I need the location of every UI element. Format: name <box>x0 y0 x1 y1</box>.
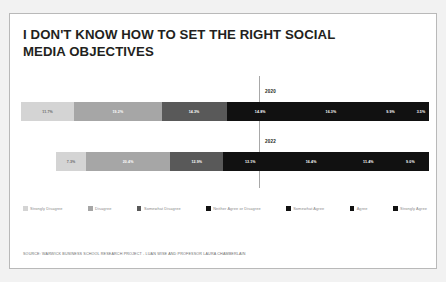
bar-segment: 13.1% <box>223 152 277 171</box>
bar-segment: 19.2% <box>74 102 161 121</box>
source-note: SOURCE: WARWICK BUSINESS SCHOOL RESEARCH… <box>23 252 246 256</box>
bar-segment: 7.3% <box>56 152 86 171</box>
legend-swatch-icon <box>286 206 291 211</box>
legend-item[interactable]: Somewhat Agree <box>286 206 324 211</box>
bar-segment: 11.7% <box>21 102 74 121</box>
bar-segment-value: 20.4% <box>123 160 134 164</box>
slide-background: I DON'T KNOW HOW TO SET THE RIGHT SOCIAL… <box>0 0 446 282</box>
bar-segment-value: 14.8% <box>255 110 266 114</box>
bar-segment: 9.9% <box>368 102 413 121</box>
neutral-divider-line <box>259 76 260 188</box>
bar-segment-value: 9.0% <box>406 160 415 164</box>
legend-item-label: Disagree <box>95 206 111 211</box>
stacked-bar-2022: 7.3%20.4%12.9%13.1%16.4%11.4%9.0% <box>56 152 429 171</box>
stacked-bar-2020: 11.7%19.2%14.3%14.8%16.3%9.9%3.5% <box>21 102 429 121</box>
legend-item-label: Agree <box>357 206 368 211</box>
bar-segment: 20.4% <box>86 152 170 171</box>
bar-segment-value: 11.4% <box>363 160 374 164</box>
legend-item-label: Somewhat Disagree <box>144 206 181 211</box>
bar-segment-value: 9.9% <box>386 110 395 114</box>
bar-segment: 16.3% <box>294 102 368 121</box>
bar-segment-value: 19.2% <box>113 110 124 114</box>
bar-segment-value: 16.4% <box>306 160 317 164</box>
legend-swatch-icon <box>206 206 211 211</box>
legend-swatch-icon <box>350 206 355 211</box>
legend-swatch-icon <box>393 206 398 211</box>
bar-segment-value: 7.3% <box>67 160 76 164</box>
chart-plot-area: 2020 2022 11.7%19.2%14.3%14.8%16.3%9.9%3… <box>10 76 437 188</box>
bar-segment-value: 3.5% <box>417 110 426 114</box>
series-label-2022: 2022 <box>265 139 276 144</box>
bar-segment-value: 16.3% <box>326 110 337 114</box>
bar-segment: 14.8% <box>227 102 294 121</box>
bar-segment: 12.9% <box>170 152 223 171</box>
series-label-2020: 2020 <box>265 89 276 94</box>
legend-item[interactable]: Somewhat Disagree <box>137 206 181 211</box>
legend-item[interactable]: Neither Agree or Disagree <box>206 206 260 211</box>
legend-swatch-icon <box>23 206 28 211</box>
bar-segment: 14.3% <box>162 102 227 121</box>
bar-segment-value: 12.9% <box>191 160 202 164</box>
legend-swatch-icon <box>88 206 93 211</box>
bar-segment: 9.0% <box>392 152 429 171</box>
bar-segment: 3.5% <box>413 102 429 121</box>
bar-segment-value: 13.1% <box>245 160 256 164</box>
legend-item[interactable]: Agree <box>350 206 368 211</box>
legend-item[interactable]: Strongly Disagree <box>23 206 63 211</box>
chart-card: I DON'T KNOW HOW TO SET THE RIGHT SOCIAL… <box>9 13 437 269</box>
legend-swatch-icon <box>137 206 142 211</box>
legend-item-label: Somewhat Agree <box>293 206 324 211</box>
bar-segment: 11.4% <box>345 152 392 171</box>
legend-item-label: Neither Agree or Disagree <box>213 206 260 211</box>
legend-item-label: Strongly Disagree <box>30 206 63 211</box>
bar-segment: 16.4% <box>277 152 345 171</box>
legend-item[interactable]: Disagree <box>88 206 111 211</box>
chart-legend: Strongly DisagreeDisagreeSomewhat Disagr… <box>23 206 427 211</box>
legend-item[interactable]: Strongly Agree <box>393 206 427 211</box>
page-title: I DON'T KNOW HOW TO SET THE RIGHT SOCIAL… <box>23 27 353 60</box>
legend-item-label: Strongly Agree <box>400 206 427 211</box>
bar-segment-value: 14.3% <box>189 110 200 114</box>
bar-segment-value: 11.7% <box>42 110 53 114</box>
